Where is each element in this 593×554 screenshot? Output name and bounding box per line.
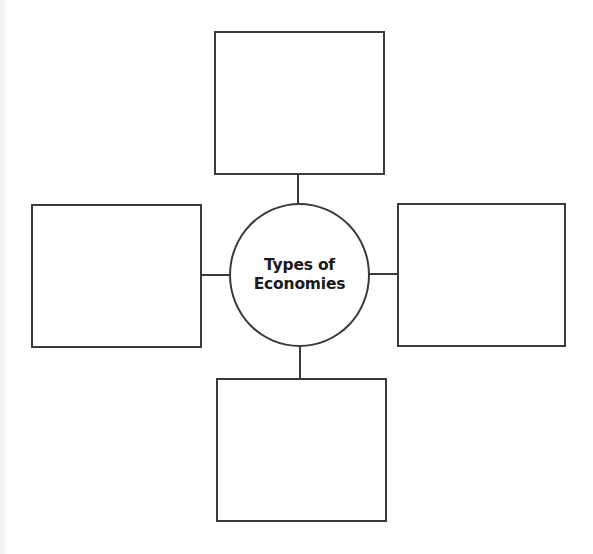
center-title-line1: Types of [254,256,346,275]
center-title: Types of Economies [254,256,346,294]
connector-bottom [299,345,301,379]
concept-box-left[interactable] [31,204,202,348]
center-title-line2: Economies [254,275,346,294]
center-circle: Types of Economies [229,203,370,347]
page-edge-shadow [0,0,5,554]
concept-box-bottom[interactable] [216,378,387,522]
connector-right [368,273,398,275]
connector-left [200,274,231,276]
concept-box-right[interactable] [397,203,566,347]
concept-box-top[interactable] [214,31,385,175]
connector-top [297,173,299,204]
